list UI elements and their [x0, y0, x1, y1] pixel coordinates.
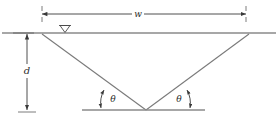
left-angle-label: θ [110, 94, 116, 104]
right-trench-slope [146, 34, 249, 110]
right-angle-label: θ [176, 94, 182, 104]
trench-diagram-figure: w d θ θ [0, 0, 278, 124]
left-trench-slope [42, 34, 146, 110]
depth-label: d [24, 65, 30, 76]
right-angle-arc [187, 90, 190, 108]
water-table-icon [59, 26, 71, 33]
trench-diagram-svg: w d θ θ [0, 0, 278, 124]
water-table-triangle [60, 26, 70, 33]
width-label: w [134, 9, 142, 19]
left-angle-arc [101, 90, 104, 108]
